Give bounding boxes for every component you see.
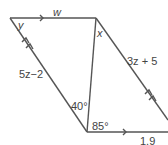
label-angle-40: 40° [71,101,88,112]
label-w: w [53,7,61,18]
label-left-side: 5z−2 [19,69,43,80]
label-bottom: 1.9 [140,136,155,145]
label-angle-85: 85° [92,121,109,132]
label-x: x [97,28,103,39]
right-side [96,18,168,120]
diagonal [87,18,96,132]
label-right-side: 3z + 5 [127,56,157,67]
label-y: y [18,20,24,31]
diagram: y w x 5z−2 3z + 5 40° 85° 1.9 [0,0,168,145]
